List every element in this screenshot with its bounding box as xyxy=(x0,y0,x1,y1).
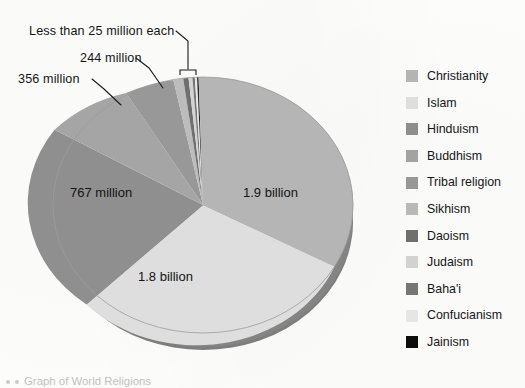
legend-item-tribal-religion[interactable]: Tribal religion xyxy=(406,169,524,196)
legend-swatch-icon xyxy=(406,230,418,242)
legend-swatch-icon xyxy=(406,150,418,162)
figure-caption: Graph of World Religions xyxy=(6,376,151,387)
legend-item-hinduism[interactable]: Hinduism xyxy=(406,116,524,143)
legend-item-jainism[interactable]: Jainism xyxy=(406,329,524,356)
leader-line-less-than-25 xyxy=(176,31,188,69)
pie-slices xyxy=(28,77,353,345)
legend-item-christianity[interactable]: Christianity xyxy=(406,63,524,90)
legend-item-label: Judaism xyxy=(427,256,473,268)
legend-item-baha-i[interactable]: Baha'i xyxy=(406,276,524,303)
legend-swatch-icon xyxy=(406,336,418,348)
slice-label-hinduism: 767 million xyxy=(70,186,132,199)
legend-swatch-icon xyxy=(406,123,418,135)
legend-swatch-icon xyxy=(406,310,418,322)
sliver-bracket xyxy=(180,70,196,75)
legend-item-label: Daoism xyxy=(427,230,469,242)
legend-item-confucianism[interactable]: Confucianism xyxy=(406,302,524,329)
legend-swatch-icon xyxy=(406,203,418,215)
legend-item-judaism[interactable]: Judaism xyxy=(406,249,524,276)
callout-less-than-25-million: Less than 25 million each xyxy=(29,25,174,38)
legend-item-label: Jainism xyxy=(427,336,469,348)
legend-item-label: Baha'i xyxy=(427,283,461,295)
chart-legend: ChristianityIslamHinduismBuddhismTribal … xyxy=(406,63,524,356)
legend-item-islam[interactable]: Islam xyxy=(406,90,524,117)
pie-chart-figure: Less than 25 million each 244 million 35… xyxy=(0,0,400,370)
callout-244-million: 244 million xyxy=(80,52,142,65)
legend-item-label: Christianity xyxy=(427,70,488,82)
caption-bullet-icon xyxy=(6,380,10,384)
figure-caption-text: Graph of World Religions xyxy=(24,376,151,387)
legend-swatch-icon xyxy=(406,97,418,109)
legend-item-daoism[interactable]: Daoism xyxy=(406,223,524,250)
legend-item-label: Confucianism xyxy=(427,309,502,321)
slice-label-islam: 1.8 billion xyxy=(138,270,193,283)
legend-swatch-icon xyxy=(406,70,418,82)
legend-swatch-icon xyxy=(406,283,418,295)
legend-item-label: Hinduism xyxy=(427,123,479,135)
slice-label-christianity: 1.9 billion xyxy=(243,186,298,199)
legend-item-label: Islam xyxy=(427,97,457,109)
legend-item-label: Tribal religion xyxy=(427,176,501,188)
caption-bullet-icon xyxy=(15,380,19,384)
legend-swatch-icon xyxy=(406,177,418,189)
pie-chart-svg xyxy=(0,0,400,370)
legend-item-buddhism[interactable]: Buddhism xyxy=(406,143,524,170)
legend-item-label: Buddhism xyxy=(427,150,482,162)
callout-356-million: 356 million xyxy=(18,73,80,86)
legend-item-sikhism[interactable]: Sikhism xyxy=(406,196,524,223)
legend-swatch-icon xyxy=(406,256,418,268)
legend-item-label: Sikhism xyxy=(427,203,470,215)
